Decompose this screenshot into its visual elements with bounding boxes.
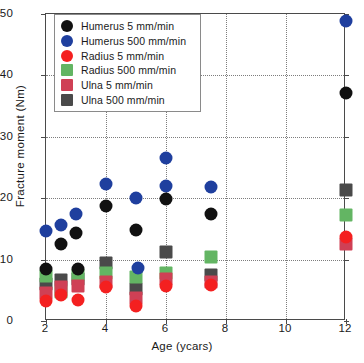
data-point bbox=[340, 208, 353, 221]
data-point bbox=[205, 207, 218, 220]
data-point bbox=[160, 179, 173, 192]
data-point bbox=[40, 294, 53, 307]
data-point bbox=[40, 224, 53, 237]
legend-item: Ulna 500 mm/min bbox=[61, 92, 195, 107]
y-tick-label: 0 bbox=[6, 314, 13, 326]
data-point bbox=[70, 227, 83, 240]
data-point bbox=[340, 231, 353, 244]
legend-label: Ulna 500 mm/min bbox=[81, 94, 165, 106]
data-point bbox=[100, 280, 113, 293]
legend-swatch-circle-icon bbox=[61, 50, 73, 62]
data-point bbox=[130, 300, 143, 313]
y-tick-label: 40 bbox=[0, 68, 13, 80]
gridline-horizontal bbox=[46, 260, 344, 261]
y-tick bbox=[41, 260, 46, 261]
x-tick-label: 8 bbox=[222, 322, 229, 334]
data-point bbox=[40, 263, 53, 276]
legend: Humerus 5 mm/minHumerus 500 mm/minRadius… bbox=[54, 14, 201, 112]
legend-swatch-square-icon bbox=[61, 79, 73, 91]
data-point bbox=[71, 294, 84, 307]
legend-item: Radius 5 mm/min bbox=[61, 48, 195, 63]
legend-item: Humerus 500 mm/min bbox=[61, 34, 195, 49]
x-tick-label: 12 bbox=[338, 322, 351, 334]
y-tick bbox=[41, 75, 46, 76]
x-tick-label: 10 bbox=[278, 322, 291, 334]
legend-label: Radius 5 mm/min bbox=[81, 50, 164, 62]
gridline-vertical bbox=[286, 14, 287, 319]
data-point bbox=[340, 14, 353, 27]
legend-item: Ulna 5 mm/min bbox=[61, 78, 195, 93]
scatter-chart: 01020304050 24681012 Age (ycars) Fractur… bbox=[0, 0, 364, 363]
data-point bbox=[70, 207, 83, 220]
x-tick-label: 6 bbox=[162, 322, 169, 334]
y-tick bbox=[41, 198, 46, 199]
data-point bbox=[160, 151, 173, 164]
legend-item: Radius 500 mm/min bbox=[61, 63, 195, 78]
legend-label: Humerus 500 mm/min bbox=[81, 35, 186, 47]
legend-label: Radius 500 mm/min bbox=[81, 64, 176, 76]
y-tick-label: 10 bbox=[0, 253, 13, 265]
data-point bbox=[55, 288, 68, 301]
data-point bbox=[340, 183, 353, 196]
y-tick-label: 30 bbox=[0, 130, 13, 142]
data-point bbox=[71, 280, 84, 293]
legend-swatch-circle-icon bbox=[61, 35, 73, 47]
gridline-horizontal bbox=[46, 198, 344, 199]
legend-label: Humerus 5 mm/min bbox=[81, 20, 174, 32]
data-point bbox=[100, 178, 113, 191]
y-tick-right bbox=[344, 137, 349, 138]
y-tick-label: 50 bbox=[0, 7, 13, 19]
legend-item: Humerus 5 mm/min bbox=[61, 19, 195, 34]
data-point bbox=[340, 86, 353, 99]
gridline-horizontal bbox=[46, 137, 344, 138]
data-point bbox=[205, 250, 218, 263]
data-point bbox=[205, 278, 218, 291]
legend-swatch-square-icon bbox=[61, 94, 73, 106]
legend-label: Ulna 5 mm/min bbox=[81, 79, 153, 91]
data-point bbox=[55, 219, 68, 232]
y-tick-right bbox=[344, 260, 349, 261]
data-point bbox=[160, 245, 173, 258]
data-point bbox=[205, 181, 218, 194]
data-point bbox=[131, 262, 144, 275]
x-tick-label: 2 bbox=[42, 322, 49, 334]
gridline-vertical bbox=[226, 14, 227, 319]
x-tick-label: 4 bbox=[102, 322, 109, 334]
data-point bbox=[100, 199, 113, 212]
data-point bbox=[160, 193, 173, 206]
data-point bbox=[71, 262, 84, 275]
y-tick bbox=[41, 14, 46, 15]
y-tick-right bbox=[344, 198, 349, 199]
y-tick-right bbox=[344, 75, 349, 76]
y-axis-title: Fracture moment (Nm) bbox=[14, 66, 26, 226]
data-point bbox=[160, 280, 173, 293]
data-point bbox=[55, 237, 68, 250]
y-tick bbox=[41, 137, 46, 138]
legend-swatch-square-icon bbox=[61, 64, 73, 76]
data-point bbox=[130, 224, 143, 237]
x-axis-title: Age (ycars) bbox=[0, 340, 364, 352]
legend-swatch-circle-icon bbox=[61, 20, 73, 32]
data-point bbox=[130, 191, 143, 204]
y-tick-label: 20 bbox=[0, 191, 13, 203]
